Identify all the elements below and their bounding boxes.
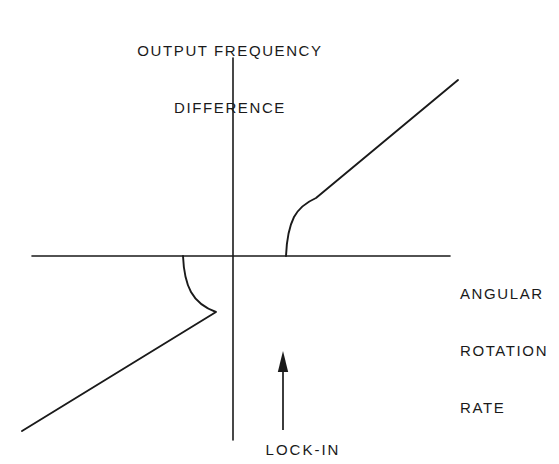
chart-title-line-1: OUTPUT FREQUENCY xyxy=(0,41,460,60)
chart-title-line-2: DIFFERENCE xyxy=(0,98,460,117)
lock-in-annotation-label: LOCK-IN xyxy=(248,440,358,459)
chart-title: OUTPUT FREQUENCY DIFFERENCE xyxy=(0,3,460,155)
lock-in-characteristic-figure: OUTPUT FREQUENCY DIFFERENCE ANGULAR ROTA… xyxy=(0,0,559,464)
x-axis-label-line-2: ROTATION xyxy=(460,341,559,360)
lock-in-arrow-icon xyxy=(278,351,288,430)
response-curve-negative xyxy=(22,256,216,431)
x-axis-label-line-3: RATE xyxy=(460,398,559,417)
x-axis-label-line-1: ANGULAR xyxy=(460,284,559,303)
x-axis-label: ANGULAR ROTATION RATE xyxy=(460,246,559,455)
